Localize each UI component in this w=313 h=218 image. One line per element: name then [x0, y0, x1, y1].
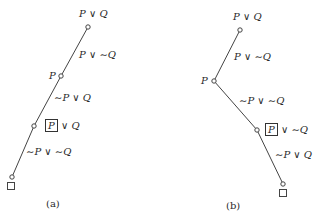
node-a1: [86, 25, 90, 29]
node-a4: [10, 175, 14, 179]
node-label-b1: P ∨ Q: [233, 12, 262, 22]
edge-label-b3: ∼P ∨ Q: [275, 150, 312, 160]
node-b3: [255, 128, 259, 132]
node-a3: [32, 124, 36, 128]
node-label-a3: P ∨ Q: [45, 121, 80, 131]
edge-label-b2: ∼P ∨ ∼Q: [239, 96, 284, 106]
node-label-a2: P: [49, 71, 56, 81]
empty-clause-square-b: [280, 190, 287, 197]
node-b4: [281, 182, 285, 186]
edge-label-a2: ∼P ∨ Q: [54, 93, 91, 103]
node-label-b2: P: [201, 76, 208, 86]
empty-clause-square-a: [8, 183, 15, 190]
edge-label-a3: ∼P ∨ ∼Q: [26, 147, 71, 157]
node-b1: [238, 28, 242, 32]
caption-b: (b): [226, 200, 240, 211]
caption-a: (a): [46, 198, 60, 209]
node-b2: [212, 79, 216, 83]
node-label-b3: P ∨ ∼Q: [265, 125, 308, 135]
diagram-edges: [0, 0, 313, 218]
edge-label-a1: P ∨ ∼Q: [79, 50, 116, 60]
edge-label-b1: P ∨ ∼Q: [234, 52, 271, 62]
node-label-a1: P ∨ Q: [79, 9, 108, 19]
node-a2: [59, 74, 63, 78]
